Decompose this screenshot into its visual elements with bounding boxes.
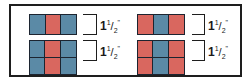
block-cell [30,15,46,34]
block-cell [61,58,76,75]
dimension-label: 11/2" [100,45,120,60]
dimension-label: 11/2" [208,19,228,34]
left-bottom-block [29,40,77,75]
left-top-block [29,14,77,35]
block-cell [153,58,168,75]
block-cell [138,58,153,75]
block-cell [169,58,184,75]
right-top-block [137,14,185,35]
right-bottom-block [137,40,185,75]
block-cell [138,15,154,34]
block-cell [169,15,184,34]
block-cell [46,15,62,34]
block-cell [138,41,153,58]
block-cell [61,41,76,58]
dimension-bracket [83,14,97,35]
dimension-bracket [83,40,97,61]
dimension-label: 11/2" [208,45,228,60]
block-cell [61,15,76,34]
block-cell [169,41,184,58]
block-cell [30,58,45,75]
block-cell [154,15,170,34]
block-cell [30,41,45,58]
block-cell [153,41,168,58]
block-cell [45,58,60,75]
dimension-bracket [192,14,205,35]
dimension-label: 11/2" [100,19,120,34]
block-cell [45,41,60,58]
dimension-bracket [192,40,205,61]
